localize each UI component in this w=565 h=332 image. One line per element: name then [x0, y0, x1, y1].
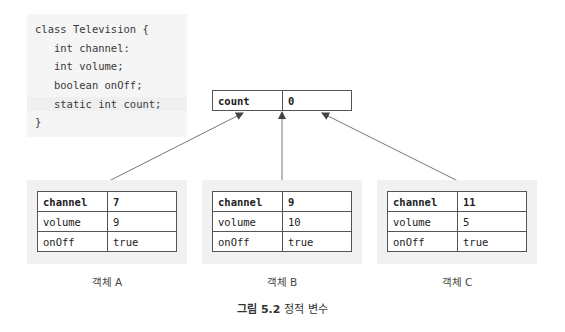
- field-value: true: [108, 232, 177, 252]
- object-b-fields: channel 9 volume 10 onOff true: [212, 191, 352, 252]
- object-b-label: 객체 B: [202, 274, 362, 289]
- object-c-fields: channel 11 volume 5 onOff true: [387, 191, 527, 252]
- field-value: 5: [458, 212, 527, 232]
- table-row: channel 11: [388, 192, 527, 212]
- table-row: onOff true: [213, 232, 352, 252]
- table-row: onOff true: [38, 232, 177, 252]
- field-name: volume: [38, 212, 108, 232]
- table-row: channel 7: [38, 192, 177, 212]
- arrow-c-to-count: [322, 113, 460, 182]
- field-value: true: [458, 232, 527, 252]
- static-field-name: count: [213, 91, 283, 111]
- table-row: volume 10: [213, 212, 352, 232]
- figure-caption: 그림 5.2정적 변수: [0, 300, 565, 316]
- field-value: 11: [458, 192, 527, 212]
- arrow-a-to-count: [107, 113, 243, 182]
- object-a-panel: channel 7 volume 9 onOff true: [27, 180, 187, 264]
- object-b-panel: channel 9 volume 10 onOff true: [202, 180, 362, 264]
- figure-title: 정적 변수: [284, 303, 328, 316]
- field-name: volume: [388, 212, 458, 232]
- field-value: true: [283, 232, 352, 252]
- table-row: onOff true: [388, 232, 527, 252]
- table-row: volume 5: [388, 212, 527, 232]
- field-value: 10: [283, 212, 352, 232]
- static-count-box: count 0: [212, 90, 352, 111]
- field-name: channel: [388, 192, 458, 212]
- figure-number: 그림 5.2: [237, 303, 280, 316]
- field-name: onOff: [38, 232, 108, 252]
- table-row: volume 9: [38, 212, 177, 232]
- object-a-label: 객체 A: [27, 274, 187, 289]
- field-name: onOff: [388, 232, 458, 252]
- object-c-panel: channel 11 volume 5 onOff true: [377, 180, 537, 264]
- object-c-label: 객체 C: [377, 274, 537, 289]
- field-name: channel: [213, 192, 283, 212]
- field-value: 9: [108, 212, 177, 232]
- field-value: 7: [108, 192, 177, 212]
- static-field-value: 0: [283, 91, 352, 111]
- field-value: 9: [283, 192, 352, 212]
- field-name: volume: [213, 212, 283, 232]
- object-a-fields: channel 7 volume 9 onOff true: [37, 191, 177, 252]
- table-row: channel 9: [213, 192, 352, 212]
- field-name: onOff: [213, 232, 283, 252]
- field-name: channel: [38, 192, 108, 212]
